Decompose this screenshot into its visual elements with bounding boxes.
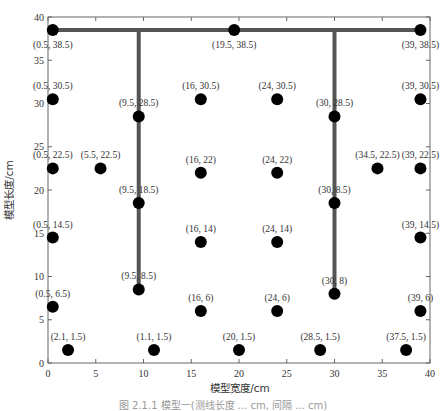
x-tick-label: 40 xyxy=(425,368,435,379)
y-axis-title: 模型长度/cm xyxy=(3,160,15,220)
x-tick-label: 20 xyxy=(234,368,244,379)
data-point xyxy=(414,93,426,105)
point-label: (39, 14.5) xyxy=(402,220,439,231)
data-point xyxy=(195,93,207,105)
data-point xyxy=(133,110,145,122)
data-point xyxy=(133,197,145,209)
x-tick-label: 15 xyxy=(186,368,196,379)
data-point xyxy=(329,197,341,209)
scatter-chart: 05101520253035400510152025303540 (0.5, 3… xyxy=(0,0,446,411)
point-label: (30, 28.5) xyxy=(316,98,353,109)
data-point xyxy=(271,167,283,179)
point-label: (16, 6) xyxy=(188,293,213,304)
data-point xyxy=(195,167,207,179)
data-point xyxy=(47,162,59,174)
point-label: (16, 22) xyxy=(186,155,216,166)
point-label: (9.5, 28.5) xyxy=(119,98,159,109)
point-label: (0.5, 30.5) xyxy=(33,81,73,92)
point-label: (0.5, 22.5) xyxy=(33,150,73,161)
point-label: (39, 38.5) xyxy=(402,40,439,51)
data-point xyxy=(62,344,74,356)
point-label: (2.1, 1.5) xyxy=(51,332,86,343)
data-point xyxy=(47,232,59,244)
point-label: (24, 14) xyxy=(262,224,292,235)
point-label: (19.5, 38.5) xyxy=(212,40,256,51)
x-tick-label: 5 xyxy=(93,368,98,379)
data-point xyxy=(414,305,426,317)
data-point xyxy=(47,24,59,36)
data-point xyxy=(271,93,283,105)
axis-ticks: 05101520253035400510152025303540 xyxy=(34,12,435,380)
data-point xyxy=(414,232,426,244)
data-point xyxy=(371,162,383,174)
x-tick-label: 0 xyxy=(46,368,51,379)
point-label: (34.5, 22.5) xyxy=(355,150,399,161)
point-label: (30, 8.5) xyxy=(318,185,350,196)
point-label: (0.5, 14.5) xyxy=(33,220,73,231)
point-label: (24, 6) xyxy=(265,293,290,304)
x-tick-label: 10 xyxy=(139,368,149,379)
point-label: (24, 22) xyxy=(262,155,292,166)
data-point xyxy=(414,24,426,36)
plot-frame xyxy=(48,17,430,363)
x-axis-title: 模型宽度/cm xyxy=(210,382,270,394)
data-point xyxy=(95,162,107,174)
y-tick-label: 10 xyxy=(34,271,44,282)
point-label: (28.5, 1.5) xyxy=(300,332,340,343)
data-point xyxy=(228,24,240,36)
point-label: (20, 1.5) xyxy=(223,332,255,343)
data-point xyxy=(329,110,341,122)
point-label: (5.5, 22.5) xyxy=(81,150,121,161)
data-point xyxy=(47,93,59,105)
y-tick-label: 0 xyxy=(39,358,44,369)
y-tick-label: 40 xyxy=(34,12,44,23)
data-point xyxy=(271,305,283,317)
point-label: (1.1, 1.5) xyxy=(137,332,172,343)
data-point xyxy=(414,162,426,174)
point-label: (0.5, 6.5) xyxy=(35,289,70,300)
data-point xyxy=(148,344,160,356)
y-tick-label: 35 xyxy=(34,55,44,66)
plot-area-border xyxy=(48,17,430,363)
data-point xyxy=(271,236,283,248)
point-label: (16, 14) xyxy=(186,224,216,235)
data-point xyxy=(47,301,59,313)
data-point xyxy=(195,305,207,317)
x-tick-label: 25 xyxy=(282,368,292,379)
point-labels: (0.5, 38.5)(19.5, 38.5)(39, 38.5)(0.5, 3… xyxy=(33,40,439,343)
point-label: (9.5, 18.5) xyxy=(119,185,159,196)
point-label: (39, 6) xyxy=(408,293,433,304)
x-tick-label: 30 xyxy=(330,368,340,379)
point-label: (37.5, 1.5) xyxy=(386,332,426,343)
point-label: (39, 22.5) xyxy=(402,150,439,161)
data-point xyxy=(233,344,245,356)
data-point xyxy=(195,236,207,248)
data-points xyxy=(47,24,427,356)
point-label: (39, 30.5) xyxy=(402,81,439,92)
point-label: (24, 30.5) xyxy=(259,81,296,92)
measurement-lines xyxy=(53,30,421,294)
x-tick-label: 35 xyxy=(377,368,387,379)
data-point xyxy=(314,344,326,356)
point-label: (16, 30.5) xyxy=(182,81,219,92)
y-tick-label: 20 xyxy=(34,185,44,196)
point-label: (9.5, 8.5) xyxy=(121,271,156,282)
data-point xyxy=(400,344,412,356)
data-point xyxy=(329,288,341,300)
data-point xyxy=(133,283,145,295)
point-label: (30, 8) xyxy=(322,276,347,287)
point-label: (0.5, 38.5) xyxy=(33,40,73,51)
y-tick-label: 30 xyxy=(34,98,44,109)
figure-caption: 图 2.1.1 模型一(测线长度 ... cm, 间隔 ... cm) xyxy=(119,399,327,411)
y-tick-label: 5 xyxy=(39,314,44,325)
